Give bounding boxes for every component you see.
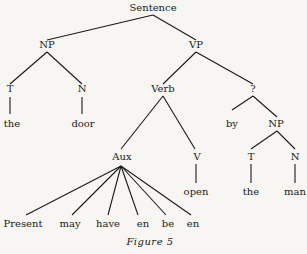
tree-edge bbox=[121, 166, 191, 215]
tree-node-t2: T bbox=[248, 151, 255, 163]
tree-edge bbox=[251, 131, 277, 149]
tree-edge bbox=[196, 52, 253, 84]
tree-node-t1: T bbox=[7, 83, 14, 95]
tree-node-have: have bbox=[96, 218, 120, 230]
figure-caption: Figure 5 bbox=[126, 236, 173, 247]
tree-node-the2: the bbox=[243, 186, 259, 198]
tree-node-np1: NP bbox=[39, 39, 54, 51]
tree-edge bbox=[26, 166, 121, 215]
tree-node-by: by bbox=[226, 118, 238, 130]
tree-node-aux: Aux bbox=[112, 151, 131, 163]
tree-edge bbox=[47, 52, 82, 84]
tree-node-v: V bbox=[193, 151, 200, 163]
tree-edge bbox=[121, 96, 163, 149]
tree-node-the1: the bbox=[4, 118, 20, 130]
tree-edge bbox=[47, 15, 153, 40]
tree-edge bbox=[72, 166, 121, 215]
tree-node-may: may bbox=[59, 218, 80, 230]
tree-edge bbox=[121, 166, 138, 215]
tree-node-np2: NP bbox=[268, 118, 283, 130]
tree-node-n1: N bbox=[78, 83, 87, 95]
tree-node-n2: N bbox=[291, 151, 300, 163]
tree-node-q: ? bbox=[250, 83, 255, 95]
tree-edge bbox=[10, 52, 47, 84]
tree-node-be: be bbox=[162, 218, 174, 230]
tree-node-man: man bbox=[284, 186, 306, 198]
tree-edge bbox=[253, 96, 277, 117]
tree-node-verb: Verb bbox=[151, 83, 174, 95]
tree-node-en2: en bbox=[187, 218, 199, 230]
parse-tree-figure: SentenceNPVPTNVerb?thedoorbyNPAuxVTNopen… bbox=[0, 0, 307, 254]
tree-edge bbox=[232, 96, 253, 110]
tree-node-present: Present bbox=[4, 218, 43, 230]
tree-node-door: door bbox=[71, 118, 94, 130]
tree-edge bbox=[121, 166, 166, 215]
tree-edge bbox=[108, 166, 121, 215]
tree-edge bbox=[163, 52, 196, 84]
tree-node-en1: en bbox=[137, 218, 149, 230]
tree-edge bbox=[277, 131, 295, 149]
tree-edge bbox=[153, 15, 196, 40]
tree-node-sentence: Sentence bbox=[129, 2, 176, 14]
tree-node-open: open bbox=[184, 186, 209, 198]
tree-edge bbox=[163, 96, 195, 149]
tree-node-vp: VP bbox=[189, 39, 203, 51]
